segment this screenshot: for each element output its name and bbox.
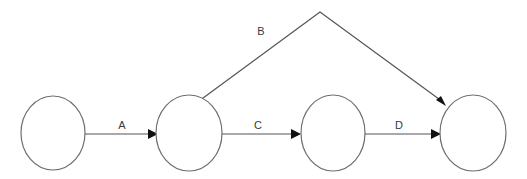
edge-c-arrowhead xyxy=(291,129,301,139)
edge-b-label: B xyxy=(257,25,265,37)
node-n3[interactable] xyxy=(301,95,365,171)
edge-c-label: C xyxy=(254,119,262,131)
diagram-canvas: A B C D xyxy=(0,0,527,179)
edge-d[interactable]: D xyxy=(365,119,441,139)
edge-b[interactable]: B xyxy=(199,12,446,106)
edge-b-line xyxy=(199,12,443,102)
edge-d-label: D xyxy=(395,119,403,131)
edge-c[interactable]: C xyxy=(222,119,301,139)
node-n1[interactable] xyxy=(21,96,85,170)
edge-a[interactable]: A xyxy=(85,119,158,139)
graph-svg: A B C D xyxy=(0,0,527,179)
node-n2[interactable] xyxy=(156,95,222,171)
node-n4[interactable] xyxy=(440,95,506,171)
edge-a-label: A xyxy=(118,119,126,131)
